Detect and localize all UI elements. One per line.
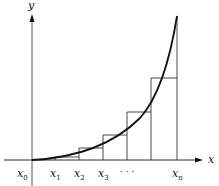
x-axis-label: x — [208, 154, 214, 165]
tick-label-x0: x0 — [17, 168, 28, 182]
y-axis-label: y — [28, 0, 34, 11]
tick-label-xn: xn — [172, 168, 183, 182]
rect-5 — [151, 78, 177, 160]
tick-label-x2: x2 — [74, 168, 85, 182]
rect-3 — [103, 135, 127, 160]
rect-2 — [79, 148, 103, 160]
tick-label-x3: x3 — [98, 168, 109, 182]
tick-label-ellipsis: · · · — [120, 168, 134, 177]
tick-label-x1: x1 — [50, 168, 61, 182]
function-curve — [32, 16, 177, 160]
x-axis-arrow-icon — [195, 158, 203, 163]
y-axis-arrow-icon — [30, 14, 35, 22]
riemann-sum-diagram — [0, 0, 219, 186]
